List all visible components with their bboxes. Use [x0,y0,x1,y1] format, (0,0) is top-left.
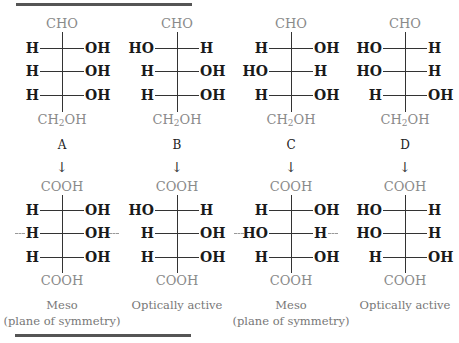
ch-text: CH [380,112,401,127]
carbon-backbone-line [291,195,292,273]
left-substituent: H [255,87,268,103]
cooh-top-group: COOH [231,179,351,195]
down-arrow-icon: ↓ [345,159,459,175]
right-substituent: OH [85,225,110,241]
caption-line-1: Meso [2,298,122,313]
left-substituent: H [141,249,154,265]
structure-label: D [345,137,459,153]
cho-group: CHO [231,16,351,32]
right-substituent: OH [85,87,110,103]
bond-line [269,71,313,72]
oh-text: OH [294,112,316,127]
bond-line [269,48,313,49]
symmetry-plane-dash-left [234,233,244,234]
left-substituent: HO [243,63,268,79]
structure-label: B [117,137,237,153]
bond-line [269,210,313,211]
cho-group: CHO [345,16,459,32]
bond-line [383,95,427,96]
bond-line [383,233,427,234]
cooh-bottom-group: COOH [117,273,237,289]
cooh-top-group: COOH [345,179,459,195]
right-substituent: H [200,202,213,218]
top-rule [16,3,192,6]
bond-line [155,71,199,72]
left-substituent: H [255,249,268,265]
bond-line [155,95,199,96]
bond-line [383,71,427,72]
bond-line [383,257,427,258]
carbon-backbone-line [291,32,292,112]
bond-line [155,233,199,234]
caption-line-2: (plane of symmetry) [231,314,351,329]
symmetry-plane-dash-right [109,233,119,234]
right-substituent: OH [200,225,225,241]
left-substituent: H [369,249,382,265]
bond-line [40,71,84,72]
bond-line [40,48,84,49]
right-substituent: OH [428,249,453,265]
left-substituent: HO [357,40,382,56]
bond-line [269,257,313,258]
ch2oh-group: CH2OH [117,112,237,131]
caption-line-1: Optically active [345,298,459,313]
bottom-rule [15,334,191,337]
right-substituent: OH [314,87,339,103]
right-substituent: OH [85,249,110,265]
carbon-backbone-line [62,195,63,273]
cooh-bottom-group: COOH [231,273,351,289]
caption-line-2: (plane of symmetry) [2,314,122,329]
right-substituent: OH [200,87,225,103]
left-substituent: H [26,63,39,79]
left-substituent: HO [243,225,268,241]
ch2oh-group: CH2OH [2,112,122,131]
symmetry-plane-dash-left [15,233,25,234]
bond-line [40,233,84,234]
carbon-backbone-line [405,195,406,273]
right-substituent: OH [314,249,339,265]
right-substituent: OH [200,63,225,79]
left-substituent: H [26,87,39,103]
right-substituent: H [428,202,441,218]
right-substituent: OH [85,40,110,56]
bond-line [155,257,199,258]
right-substituent: H [314,63,327,79]
right-substituent: H [200,40,213,56]
left-substituent: HO [357,202,382,218]
bond-line [155,210,199,211]
left-substituent: H [26,202,39,218]
right-substituent: OH [314,202,339,218]
right-substituent: H [428,225,441,241]
down-arrow-icon: ↓ [2,159,122,175]
bond-line [40,210,84,211]
right-substituent: OH [428,87,453,103]
ch2oh-group: CH2OH [345,112,459,131]
left-substituent: H [141,87,154,103]
structure-label: A [2,137,122,153]
right-substituent: OH [85,202,110,218]
right-substituent: H [428,63,441,79]
cooh-top-group: COOH [117,179,237,195]
bond-line [40,257,84,258]
down-arrow-icon: ↓ [231,159,351,175]
structure-label: C [231,137,351,153]
cho-group: CHO [2,16,122,32]
down-arrow-icon: ↓ [117,159,237,175]
left-substituent: H [26,225,39,241]
left-substituent: H [369,87,382,103]
left-substituent: HO [357,225,382,241]
bond-line [383,210,427,211]
cooh-bottom-group: COOH [345,273,459,289]
bond-line [383,48,427,49]
caption-line-1: Meso [231,298,351,313]
cho-group: CHO [117,16,237,32]
right-substituent: OH [200,249,225,265]
carbon-backbone-line [177,195,178,273]
right-substituent: H [428,40,441,56]
carbon-backbone-line [177,32,178,112]
caption-line-1: Optically active [117,298,237,313]
cooh-bottom-group: COOH [2,273,122,289]
left-substituent: H [255,202,268,218]
oh-text: OH [180,112,202,127]
cooh-top-group: COOH [2,179,122,195]
